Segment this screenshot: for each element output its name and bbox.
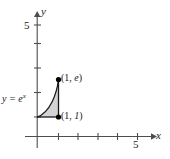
exponential-area-figure: y x 5 5 y = ex (1, e) (1, 1) <box>0 0 170 159</box>
x-tick-label-5: 5 <box>133 139 139 150</box>
x-axis-label: x <box>156 130 161 141</box>
point-label-lower-open: (1, <box>61 110 74 121</box>
y-axis-arrowhead <box>34 11 40 17</box>
point-label-upper-open: (1, <box>61 72 74 83</box>
shaded-region <box>37 80 59 118</box>
point-label-lower-close: ) <box>79 110 82 121</box>
curve-equation-base: y = e <box>2 93 23 104</box>
point-label-upper-close: ) <box>79 72 82 83</box>
point-label-1-1: (1, 1) <box>61 111 83 121</box>
y-axis-label: y <box>41 6 46 17</box>
curve-equation-exponent: x <box>23 92 26 100</box>
curve-equation-label: y = ex <box>2 93 26 104</box>
point-label-1-e: (1, e) <box>61 73 82 83</box>
y-tick-label-5: 5 <box>24 20 30 31</box>
